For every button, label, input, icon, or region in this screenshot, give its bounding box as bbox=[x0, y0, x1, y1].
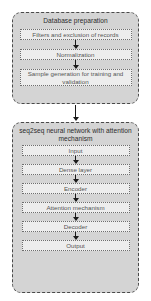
arrow-head bbox=[73, 198, 79, 202]
step-filters-and-exclusion-of-records: Filters and exclusion of records bbox=[20, 29, 132, 40]
arrow-head bbox=[73, 217, 79, 221]
arrow-head bbox=[73, 117, 79, 121]
arrow-shaft bbox=[75, 105, 76, 118]
arrow-head bbox=[73, 179, 79, 183]
group-seq2seq-neural-network: seq2seq neural network with attention me… bbox=[12, 122, 139, 293]
arrow-filters-to-normalization bbox=[71, 40, 80, 49]
step-normalization: Normalization bbox=[20, 49, 132, 60]
flowchart-diagram: Database preparation Filters and exclusi… bbox=[0, 0, 151, 301]
arrow-dense-layer-to-encoder bbox=[71, 175, 80, 183]
step-output: Output bbox=[22, 240, 130, 251]
step-encoder: Encoder bbox=[22, 183, 130, 194]
arrow-attention-mechanism-to-decoder bbox=[71, 213, 80, 221]
arrow-database-preparation-to-neural-network bbox=[71, 105, 80, 121]
arrow-normalization-to-sample-generation bbox=[71, 60, 80, 69]
group-title-seq2seq-neural-network: seq2seq neural network with attention me… bbox=[13, 127, 138, 143]
step-input: Input bbox=[22, 145, 130, 156]
arrow-head bbox=[73, 160, 79, 164]
arrow-head bbox=[73, 65, 79, 69]
group-database-preparation: Database preparation Filters and exclusi… bbox=[12, 12, 139, 104]
step-attention-mechanism: Attention mechanism bbox=[22, 202, 130, 213]
arrow-decoder-to-output bbox=[71, 232, 80, 240]
step-decoder: Decoder bbox=[22, 221, 130, 232]
arrow-head bbox=[73, 45, 79, 49]
step-dense-layer: Dense layer bbox=[22, 164, 130, 175]
arrow-encoder-to-attention-mechanism bbox=[71, 194, 80, 202]
step-sample-generation-for-training-and-validation: Sample generation for training and valid… bbox=[20, 69, 132, 86]
arrow-head bbox=[73, 236, 79, 240]
group-title-database-preparation: Database preparation bbox=[13, 17, 138, 25]
arrow-input-to-dense-layer bbox=[71, 156, 80, 164]
